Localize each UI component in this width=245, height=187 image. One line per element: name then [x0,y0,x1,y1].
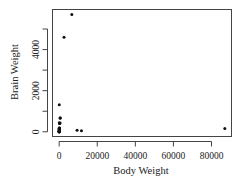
plot-frame [53,10,232,137]
x-tick-label: 80000 [200,151,224,161]
x-axis-label: Body Weight [113,165,168,176]
data-point [58,127,61,130]
data-points [58,13,227,133]
data-point [223,127,226,130]
y-tick-label: 0 [31,129,41,134]
x-tick-label: 0 [57,151,62,161]
data-point [76,129,79,132]
data-point [70,13,73,16]
data-point [58,103,61,106]
data-point [63,36,66,39]
data-point [58,129,61,132]
data-point [58,121,61,124]
data-point [59,116,62,119]
x-tick-label: 40000 [123,151,147,161]
y-axis: 020004000 [31,29,48,134]
x-axis: 020000400006000080000 [57,142,224,161]
x-tick-label: 20000 [85,151,109,161]
x-tick-label: 60000 [162,151,186,161]
scatter-chart: 020000400006000080000 020004000 Body Wei… [0,0,245,187]
y-tick-label: 2000 [31,81,41,100]
data-point [80,129,83,132]
y-tick-label: 4000 [31,40,41,59]
y-axis-label: Brain Weight [9,44,20,100]
